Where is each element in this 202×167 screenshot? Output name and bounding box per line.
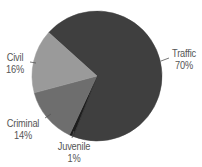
label-juvenile-pct: 1% <box>55 152 94 164</box>
label-traffic: Traffic 70% <box>168 47 200 71</box>
label-criminal-name: Criminal <box>5 117 42 129</box>
pie-chart <box>0 0 202 167</box>
pie-slices <box>32 11 162 141</box>
label-civil-pct: 16% <box>4 63 27 75</box>
label-criminal: Criminal 14% <box>5 117 42 141</box>
label-juvenile: Juvenile 1% <box>55 140 94 164</box>
label-criminal-pct: 14% <box>5 129 42 141</box>
label-traffic-pct: 70% <box>168 59 200 71</box>
label-civil-name: Civil <box>4 51 27 63</box>
label-juvenile-name: Juvenile <box>55 140 94 152</box>
label-civil: Civil 16% <box>4 51 27 75</box>
label-traffic-name: Traffic <box>168 47 200 59</box>
